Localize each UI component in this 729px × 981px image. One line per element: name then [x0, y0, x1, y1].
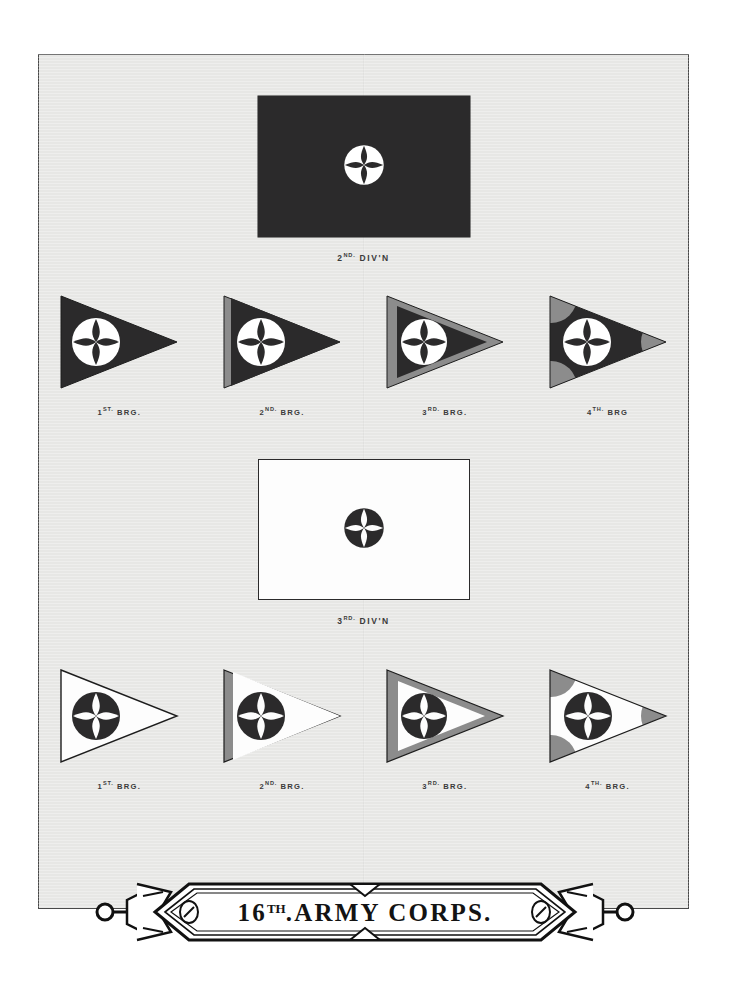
division-emblem — [335, 136, 393, 198]
brigade-cell-3-3: 3RD. BRG. — [370, 664, 520, 791]
banner-number: 16 — [237, 899, 266, 926]
brigade-label-2-1: 1ST. BRG. — [44, 406, 194, 417]
pennant-shape-corner-wedges — [542, 664, 674, 768]
division-emblem — [335, 499, 393, 561]
pennant-3-3[interactable] — [379, 664, 511, 768]
second-division-flag-block: 2ND. DIV'N — [38, 96, 689, 263]
banner-ordinal-dot: . — [285, 899, 293, 926]
brigade-label-3-2: 2ND. BRG. — [207, 780, 357, 791]
pennant-shape-plain — [53, 664, 185, 768]
banner-screw-left — [180, 901, 198, 923]
second-division-brigade-row: 1ST. BRG. — [38, 290, 689, 417]
pennant-3-1[interactable] — [53, 664, 185, 768]
title-banner: 16TH.ARMY CORPS. — [0, 862, 729, 972]
pierced-cross-disc-icon — [335, 499, 393, 557]
brigade-label-2-3: 3RD. BRG. — [370, 406, 520, 417]
brigade-label-2-4: 4TH. BRG — [533, 406, 683, 417]
brigade-cell-2-1: 1ST. BRG. — [44, 290, 194, 417]
pennant-2-3[interactable] — [379, 290, 511, 394]
banner-ordinal: TH — [266, 901, 285, 916]
banner-words: ARMY CORPS. — [294, 899, 492, 926]
pennant-shape-full-border — [379, 664, 511, 768]
third-division-brigade-row: 1ST. BRG. — [38, 664, 689, 791]
plate-wrapper: 2ND. DIV'N — [38, 54, 689, 909]
pennant-shape-corner-wedges — [542, 290, 674, 394]
pierced-cross-disc-icon — [335, 136, 393, 194]
brigade-cell-3-1: 1ST. BRG. — [44, 664, 194, 791]
third-division-flag-block: 3RD. DIV'N — [38, 459, 689, 626]
title-banner-plate: 16TH.ARMY CORPS. — [85, 862, 645, 962]
brigade-cell-2-4: 4TH. BRG — [533, 290, 683, 417]
brigade-label-2-2: 2ND. BRG. — [207, 406, 357, 417]
pennant-2-1[interactable] — [53, 290, 185, 394]
second-division-label: 2ND. DIV'N — [38, 252, 689, 263]
banner-screw-right — [532, 901, 550, 923]
brigade-label-3-4: 4TH. BRG. — [533, 780, 683, 791]
pennant-3-4[interactable] — [542, 664, 674, 768]
pennant-2-2[interactable] — [216, 290, 348, 394]
brigade-cell-2-2: 2ND. BRG. — [207, 290, 357, 417]
brigade-cell-2-3: 3RD. BRG. — [370, 290, 520, 417]
pennant-shape-hoist-border — [216, 290, 348, 394]
brigade-cell-3-4: 4TH. BRG. — [533, 664, 683, 791]
pennant-2-4[interactable] — [542, 290, 674, 394]
brigade-label-3-1: 1ST. BRG. — [44, 780, 194, 791]
pennant-shape-full-border — [379, 290, 511, 394]
second-division-flag[interactable] — [258, 96, 470, 237]
pennant-3-2[interactable] — [216, 664, 348, 768]
pennant-shape-plain — [53, 290, 185, 394]
brigade-label-3-3: 3RD. BRG. — [370, 780, 520, 791]
brigade-cell-3-2: 2ND. BRG. — [207, 664, 357, 791]
third-division-flag[interactable] — [258, 459, 470, 600]
third-division-label: 3RD. DIV'N — [38, 615, 689, 626]
pennant-shape-hoist-border — [216, 664, 348, 768]
